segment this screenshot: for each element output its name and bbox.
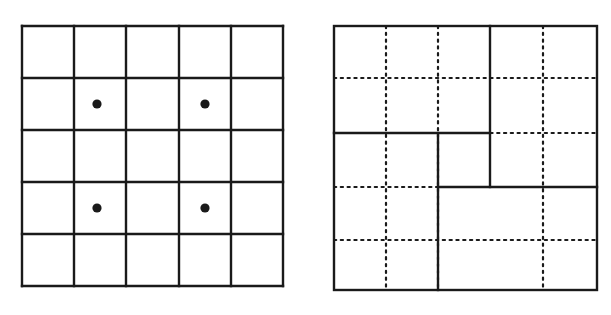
dot-r4c2 — [92, 203, 101, 212]
dot-r2c4 — [200, 99, 209, 108]
figure-canvas — [0, 0, 611, 315]
right-panel — [334, 26, 597, 290]
left-panel — [22, 26, 283, 286]
dot-r4c4 — [200, 203, 209, 212]
dotted-grid — [334, 26, 597, 290]
outer-border — [334, 26, 597, 290]
dot-r2c2 — [92, 99, 101, 108]
outer-border-rect — [334, 26, 597, 290]
solid-partitions — [334, 26, 597, 290]
grid-lines — [22, 26, 283, 286]
dot-group — [92, 99, 209, 212]
figure-svg — [0, 0, 611, 315]
